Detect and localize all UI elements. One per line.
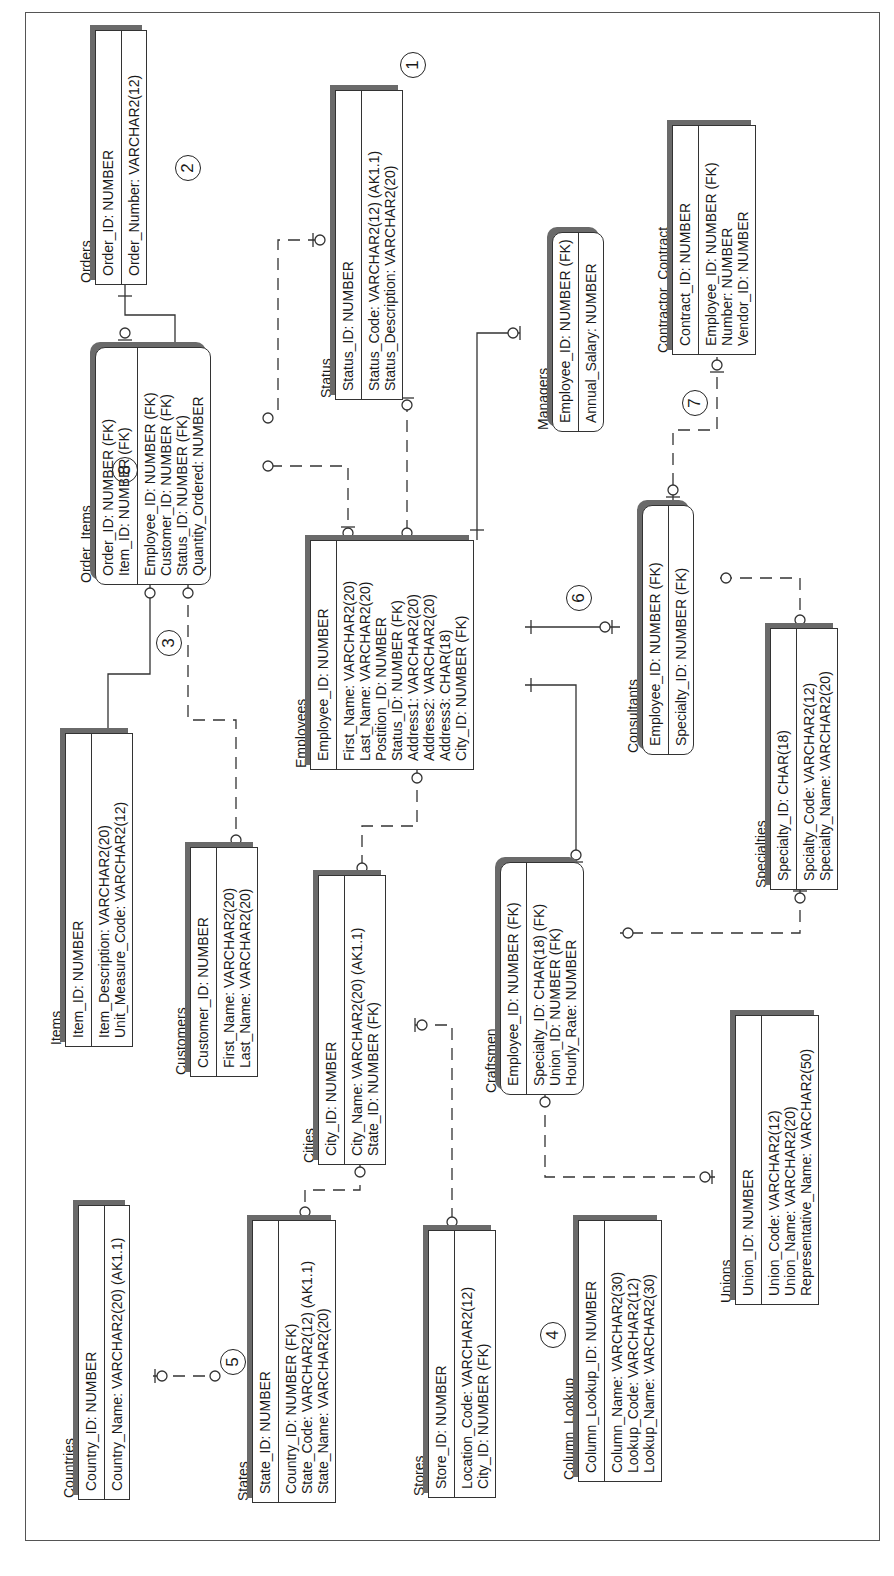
attribute: Union_Name: VARCHAR2(20) xyxy=(782,1024,798,1296)
entity-title: Specialties xyxy=(753,628,770,890)
attribute: Vendor_ID: NUMBER xyxy=(735,134,751,346)
attribute: Specialty_Name: VARCHAR2(20) xyxy=(817,637,833,881)
attribute: City_ID: NUMBER (FK) xyxy=(475,1239,491,1489)
attribute: Last_Name: VARCHAR2(20) xyxy=(357,549,373,761)
pk-attribute: Store_ID: NUMBER xyxy=(433,1239,449,1489)
entity-title: Column_Lookup xyxy=(561,1220,578,1482)
entity-title: Status xyxy=(318,90,335,400)
attribute: State_Name: VARCHAR2(20) xyxy=(315,1229,331,1494)
attribute: Spcialty_Code: VARCHAR2(12) xyxy=(801,637,817,881)
pk-attribute: Column_Lookup_ID: NUMBER xyxy=(583,1229,599,1473)
entity-title: Customers xyxy=(173,847,190,1077)
attribute: Order_Number: VARCHAR2(12) xyxy=(126,39,142,276)
attribute: Hourly_Rate: NUMBER xyxy=(563,871,579,1086)
entity-states[interactable]: States State_ID: NUMBER Country_ID: NUMB… xyxy=(235,1220,362,1503)
attribute: Status_Description: VARCHAR2(20) xyxy=(382,99,398,391)
entity-orders[interactable]: Orders Order_ID: NUMBER Order_Number: VA… xyxy=(78,30,160,285)
entity-title: Cities xyxy=(301,875,318,1165)
entity-contractor-contract[interactable]: Contractor_Contract Contract_ID: NUMBER … xyxy=(655,125,778,355)
attribute: First_Name: VARCHAR2(20) xyxy=(221,856,237,1068)
attribute: Last_Name: VARCHAR2(20) xyxy=(237,856,253,1068)
callout-2: 2 xyxy=(175,155,201,181)
attribute: Annual_Salary: NUMBER xyxy=(583,241,599,423)
pk-attribute: Union_ID: NUMBER xyxy=(740,1024,756,1296)
attribute: Country_Name: VARCHAR2(20) (AK1.1) xyxy=(109,1214,125,1491)
entity-title: Stores xyxy=(411,1230,428,1498)
attribute: Employee_ID: NUMBER (FK) xyxy=(703,134,719,346)
attribute: State_ID: NUMBER (FK) xyxy=(365,884,381,1156)
callout-3: 3 xyxy=(156,630,182,656)
attribute: Specialty_ID: CHAR(18) (FK) xyxy=(531,871,547,1086)
pk-attribute: Customer_ID: NUMBER xyxy=(195,856,211,1068)
entity-title: Contractor_Contract xyxy=(655,125,672,355)
pk-attribute: Order_ID: NUMBER xyxy=(100,39,116,276)
attribute: Column_Name: VARCHAR2(30) xyxy=(609,1229,625,1473)
entity-title: Order_Items xyxy=(78,347,95,585)
pk-attribute: Employee_ID: NUMBER (FK) xyxy=(505,871,521,1086)
attribute: Item_Description: VARCHAR2(20) xyxy=(96,742,112,1038)
pk-attribute: Contract_ID: NUMBER xyxy=(677,134,693,346)
entity-title: Employees xyxy=(293,540,310,770)
entity-managers[interactable]: Managers Employee_ID: NUMBER (FK) Annual… xyxy=(535,232,630,432)
pk-attribute: Status_ID: NUMBER xyxy=(340,99,356,391)
attribute: Country_ID: NUMBER (FK) xyxy=(283,1229,299,1494)
pk-attribute: Employee_ID: NUMBER (FK) xyxy=(647,514,663,746)
attribute: Specialty_ID: NUMBER (FK) xyxy=(673,514,689,746)
attribute: City_Name: VARCHAR2(20) (AK1.1) xyxy=(349,884,365,1156)
attribute: Postition_ID: NUMBER xyxy=(373,549,389,761)
pk-attribute: Employee_ID: NUMBER xyxy=(315,549,331,761)
attribute: City_ID: NUMBER (FK) xyxy=(453,549,469,761)
attribute: Customer_ID: NUMBER (FK) xyxy=(158,356,174,576)
pk-attribute: Item_ID: NUMBER xyxy=(70,742,86,1038)
callout-6: 6 xyxy=(566,585,592,611)
entity-title: Consultants xyxy=(625,505,642,755)
callout-1: 1 xyxy=(400,52,426,78)
pk-attribute: Country_ID: NUMBER xyxy=(83,1214,99,1491)
callout-5: 5 xyxy=(220,1349,246,1375)
pk-attribute: State_ID: NUMBER xyxy=(257,1229,273,1494)
entity-title: Orders xyxy=(78,30,95,285)
entity-title: Craftsmen xyxy=(483,862,500,1095)
attribute: Unit_Measure_Code: VARCHAR2(12) xyxy=(112,742,128,1038)
entity-cities[interactable]: Cities City_ID: NUMBER City_Name: VARCHA… xyxy=(301,875,415,1165)
pk-attribute: City_ID: NUMBER xyxy=(323,884,339,1156)
attribute: Lookup_Name: VARCHAR2(30) xyxy=(641,1229,657,1473)
attribute: First_Name: VARCHAR2(20) xyxy=(341,549,357,761)
entity-status[interactable]: Status Status_ID: NUMBER Status_Code: VA… xyxy=(318,90,450,400)
entity-order-items[interactable]: Order_Items Order_ID: NUMBER (FK)Item_ID… xyxy=(78,347,270,585)
entity-employees[interactable]: Employees Employee_ID: NUMBER First_Name… xyxy=(293,540,525,770)
entity-column-lookup[interactable]: Column_Lookup Column_Lookup_ID: NUMBER C… xyxy=(561,1220,685,1482)
attribute: Union_ID: NUMBER (FK) xyxy=(547,871,563,1086)
entity-title: Managers xyxy=(535,232,552,432)
attribute: Address2: VARCHAR2(20) xyxy=(421,549,437,761)
entity-stores[interactable]: Stores Store_ID: NUMBER Location_Code: V… xyxy=(411,1230,520,1498)
entity-customers[interactable]: Customers Customer_ID: NUMBER First_Name… xyxy=(173,847,285,1077)
attribute: Lookup_Code: VARCHAR2(12) xyxy=(625,1229,641,1473)
attribute: Location_Code: VARCHAR2(12) xyxy=(459,1239,475,1489)
entity-consultants[interactable]: Consultants Employee_ID: NUMBER (FK) Spe… xyxy=(625,505,720,755)
entity-craftsmen[interactable]: Craftsmen Employee_ID: NUMBER (FK) Speci… xyxy=(483,862,620,1095)
entity-specialties[interactable]: Specialties Specialty_ID: CHAR(18) Spcia… xyxy=(753,628,860,890)
pk-attribute: Specialty_ID: CHAR(18) xyxy=(775,637,791,881)
attribute: Status_ID: NUMBER (FK) xyxy=(389,549,405,761)
entity-unions[interactable]: Unions Union_ID: NUMBER Union_Code: VARC… xyxy=(718,1015,855,1305)
callout-4: 4 xyxy=(540,1322,566,1348)
attribute: Address1: VARCHAR2(20) xyxy=(405,549,421,761)
callout-8: 8 xyxy=(112,457,138,483)
attribute: Number: NUMBER xyxy=(719,134,735,346)
entity-title: Unions xyxy=(718,1015,735,1305)
entity-items[interactable]: Items Item_ID: NUMBER Item_Description: … xyxy=(48,733,153,1047)
entity-title: Countries xyxy=(61,1205,78,1500)
entity-countries[interactable]: Countries Country_ID: NUMBER Country_Nam… xyxy=(61,1205,153,1500)
pk-attribute: Employee_ID: NUMBER (FK) xyxy=(557,241,573,423)
entity-title: Items xyxy=(48,733,65,1047)
attribute: Representative_Name: VARCHAR2(50) xyxy=(798,1024,814,1296)
callout-7: 7 xyxy=(682,390,708,416)
attribute: Union_Code: VARCHAR2(12) xyxy=(766,1024,782,1296)
attribute: Status_ID: NUMBER (FK) xyxy=(174,356,190,576)
attribute: State_Code: VARCHAR2(12) (AK1.1) xyxy=(299,1229,315,1494)
attribute: Employee_ID: NUMBER (FK) xyxy=(142,356,158,576)
attribute: Status_Code: VARCHAR2(12) (AK1.1) xyxy=(366,99,382,391)
attribute: Quantity_Ordered: NUMBER xyxy=(190,356,206,576)
attribute: Address3: CHAR(18) xyxy=(437,549,453,761)
